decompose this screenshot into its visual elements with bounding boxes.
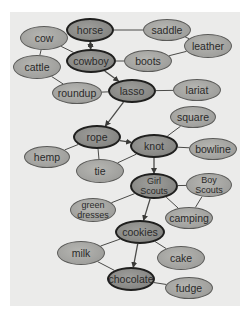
edge-girl-scouts-cookies: [144, 199, 150, 220]
edge-boots-leather: [169, 51, 186, 55]
node-label-line: Scouts: [140, 186, 168, 196]
node-cow: cow: [20, 26, 68, 50]
edge-girl-scouts-green-dresses: [111, 194, 134, 203]
node-label: saddle: [152, 25, 183, 35]
node-label: cow: [35, 33, 54, 43]
edge-boy-scouts-camping: [195, 196, 202, 207]
node-label-line: Scouts: [195, 185, 223, 195]
edge-rope-knot: [120, 141, 131, 143]
edge-chocolate-fudge: [154, 283, 166, 285]
node-green-dresses: greendresses: [70, 198, 116, 222]
node-label-line: Boy: [195, 175, 223, 185]
node-cake: cake: [157, 246, 205, 270]
edge-cookies-cake: [155, 242, 166, 249]
edge-knot-tie: [118, 154, 137, 163]
edge-rope-hemp: [65, 144, 79, 149]
node-fudge: fudge: [165, 277, 213, 299]
node-chocolate: chocolate: [107, 267, 155, 291]
edge-knot-square: [167, 126, 180, 136]
node-label: bowline: [195, 144, 231, 154]
node-leather: leather: [184, 34, 232, 58]
node-label: lariat: [186, 85, 209, 95]
node-cattle: cattle: [13, 55, 61, 79]
edge-knot-bowline: [178, 147, 189, 148]
node-label: cowboy: [73, 56, 109, 66]
edge-girl-scouts-camping: [166, 197, 178, 208]
node-label: cookies: [122, 227, 158, 237]
node-bowline: bowline: [189, 138, 237, 160]
node-knot: knot: [130, 134, 178, 158]
node-label: boots: [135, 56, 161, 66]
node-cowboy: cowboy: [66, 49, 116, 73]
node-label: knot: [144, 141, 164, 151]
node-label: hemp: [34, 152, 60, 162]
edge-cattle-roundup: [52, 77, 63, 84]
edge-milk-chocolate: [98, 262, 115, 271]
node-girl-scouts: GirlScouts: [130, 173, 178, 199]
edge-cowboy-lasso: [105, 71, 119, 81]
node-label: fudge: [176, 283, 202, 293]
node-saddle: saddle: [143, 19, 191, 41]
edge-rope-tie: [98, 149, 99, 159]
edge-cookies-chocolate: [133, 244, 137, 267]
node-boy-scouts: BoyScouts: [186, 173, 232, 197]
node-label: roundup: [58, 88, 97, 98]
node-label: square: [177, 112, 209, 122]
node-hemp: hemp: [24, 146, 70, 168]
node-cookies: cookies: [115, 220, 165, 244]
node-boots: boots: [124, 50, 172, 72]
node-roundup: roundup: [52, 82, 102, 104]
node-label: cattle: [24, 62, 49, 72]
node-camping: camping: [165, 207, 213, 229]
node-label: horse: [77, 25, 103, 35]
node-tie: tie: [76, 159, 124, 183]
edge-cow-cowboy: [61, 46, 73, 52]
edge-lasso-rope: [106, 102, 124, 126]
node-label: cake: [170, 253, 192, 263]
node-label: camping: [169, 213, 209, 223]
node-lariat: lariat: [173, 79, 221, 101]
node-square: square: [170, 106, 216, 128]
node-label: tie: [94, 166, 105, 176]
node-label-line: dresses: [77, 210, 109, 220]
node-label: lasso: [120, 86, 145, 96]
node-label: chocolate: [109, 274, 154, 284]
node-milk: milk: [57, 241, 105, 265]
node-label: rope: [86, 132, 107, 142]
node-label-line: green: [77, 200, 109, 210]
node-rope: rope: [73, 125, 121, 149]
edge-cookies-milk: [101, 239, 120, 246]
node-label-line: Girl: [140, 176, 168, 186]
node-horse: horse: [66, 18, 114, 42]
node-label: leather: [192, 41, 224, 51]
node-lasso: lasso: [108, 79, 156, 103]
node-label: milk: [72, 248, 91, 258]
